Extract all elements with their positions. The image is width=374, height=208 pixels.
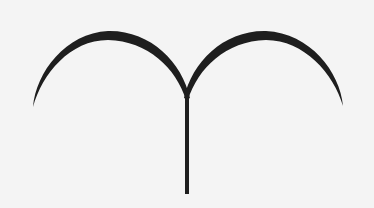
left-horn-arc: [33, 31, 190, 107]
aries-symbol-canvas: Aries: [0, 0, 374, 208]
stem-line: [185, 92, 189, 194]
right-horn-arc: [184, 31, 343, 106]
aries-icon: [0, 0, 374, 208]
